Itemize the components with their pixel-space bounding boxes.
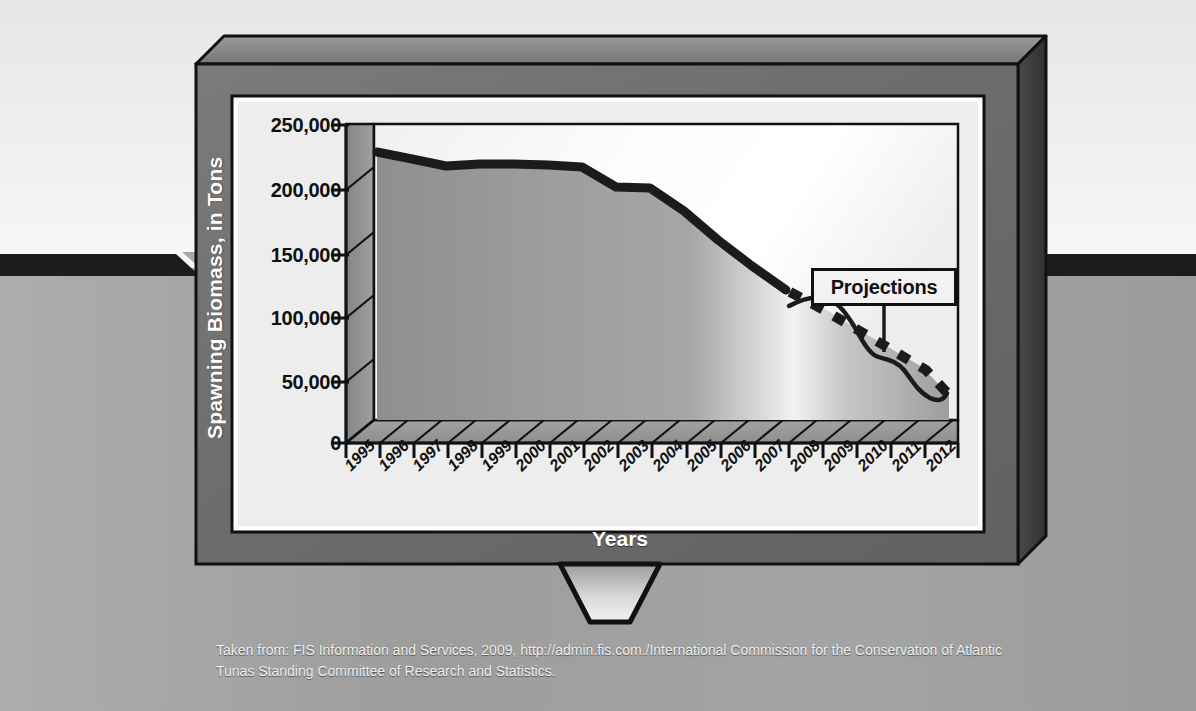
x-tick-label: 2009 — [820, 437, 858, 475]
x-tick-label: 2005 — [683, 437, 721, 475]
x-tick-label: 2010 — [854, 437, 892, 475]
x-tick-label: 2004 — [649, 437, 687, 475]
x-tick-label: 1999 — [478, 437, 516, 475]
projections-callout: Projections — [811, 268, 957, 306]
x-tick-label: 2012 — [922, 437, 960, 475]
x-tick-label: 2001 — [546, 437, 584, 475]
x-tick-label: 2002 — [580, 437, 618, 475]
x-tick-label: 2011 — [888, 438, 925, 475]
projections-callout-label: Projections — [831, 276, 938, 299]
source-caption: Taken from: FIS Information and Services… — [216, 640, 1006, 682]
x-tick-label: 2008 — [786, 437, 824, 475]
x-axis-tick-labels: 1995199619971998199920002001200220032004… — [0, 0, 1196, 711]
x-tick-label: 2000 — [512, 437, 550, 475]
x-tick-label: 1996 — [375, 437, 413, 475]
x-tick-label: 2003 — [615, 437, 653, 475]
figure-canvas: Spawning Biomass, in Tons Years 250,000 … — [0, 0, 1196, 711]
x-tick-label: 1998 — [444, 437, 482, 475]
x-tick-label: 2007 — [751, 437, 789, 475]
x-tick-label: 1995 — [341, 437, 379, 475]
x-tick-label: 2006 — [717, 437, 755, 475]
x-tick-label: 1997 — [409, 437, 447, 475]
